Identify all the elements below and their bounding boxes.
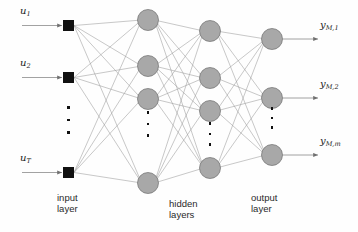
input-signal-label-3: uT [20,152,31,163]
ellipsis-dot [271,117,274,120]
ellipsis-dot [147,123,150,126]
output-layer-ellipsis [271,107,274,129]
ellipsis-dot [67,131,70,134]
caption-line-1: output [251,193,277,204]
output-label-subscript: M,2 [326,83,339,91]
output-label-subscript: M,1 [326,24,339,32]
output-arrows [283,39,319,155]
ellipsis-dot [147,111,150,114]
output-label-base: y [320,78,326,89]
ellipsis-dot [271,107,274,110]
input-label-subscript: 1 [26,10,30,18]
ellipsis-dot [67,106,70,109]
input-signal-label-1: u1 [20,5,31,16]
output-layer-caption: outputlayer [251,193,277,214]
input-layer-ellipsis [67,106,70,134]
network-diagram: u1u2uTyM,1yM,2yM,minputlayerhiddenlayers… [0,0,358,232]
caption-line-2: layers [169,210,198,221]
output-label-base: y [320,19,326,30]
ellipsis-dot [209,122,212,125]
caption-line-2: layer [57,204,78,215]
connection-edges [74,20,266,183]
output-signal-label-3: yM,m [320,135,341,146]
input-arrows [22,26,62,173]
hidden-layers-caption: hiddenlayers [169,199,198,220]
hidden-layer-1-ellipsis [147,111,150,137]
ellipsis-dot [67,119,70,122]
output-signal-label-2: yM,2 [320,78,339,89]
ellipsis-dot [271,126,274,129]
hidden-layer-2-ellipsis [209,122,212,146]
caption-line-2: layer [251,204,277,215]
output-signal-label-1: yM,1 [320,19,339,30]
ellipsis-dot [209,133,212,136]
ellipsis-dot [147,134,150,137]
output-label-subscript: M,m [326,140,341,148]
ellipsis-dot [209,143,212,146]
output-label-base: y [320,135,326,146]
input-layer-caption: inputlayer [57,193,78,214]
hidden-nodes [138,10,221,194]
input-signal-label-2: u2 [20,57,31,68]
input-label-subscript: 2 [26,62,30,70]
output-nodes [262,29,283,166]
input-label-subscript: T [26,157,30,165]
input-nodes [63,20,74,178]
caption-line-1: input [57,193,78,204]
caption-line-1: hidden [169,199,198,210]
